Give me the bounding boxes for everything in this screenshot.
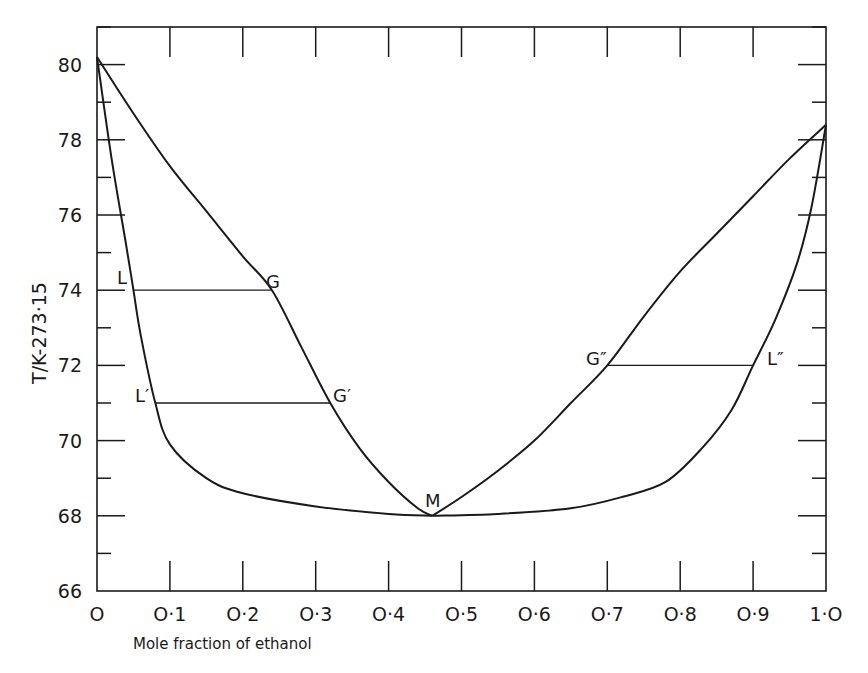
x-tick-label: O·7	[591, 603, 624, 625]
x-tick-label: O	[90, 603, 105, 625]
curve-0	[97, 57, 432, 516]
y-tick-label: 76	[58, 204, 82, 226]
x-tick-label: O·4	[372, 603, 405, 625]
point-label-L-prime: L′	[135, 385, 149, 406]
x-tick-label: O·1	[153, 603, 186, 625]
y-axis-title: T/K-273·15	[28, 282, 50, 385]
phase-curves	[97, 57, 826, 516]
tie-lines	[133, 290, 753, 403]
x-tick-label: O·2	[226, 603, 259, 625]
y-tick-label: 78	[58, 129, 82, 151]
point-label-G-double-prime: G″	[586, 348, 607, 369]
x-tick-labels: OO·1O·2O·3O·4O·5O·6O·7O·8O·91·O	[90, 603, 843, 625]
curve-3	[432, 125, 826, 516]
x-tick-label: O·9	[737, 603, 770, 625]
curve-1	[97, 57, 432, 516]
plot-frame	[97, 27, 826, 591]
x-tick-label: O·5	[445, 603, 478, 625]
x-tick-label: 1·O	[809, 603, 842, 625]
y-tick-label: 70	[58, 430, 82, 452]
point-label-G-prime: G′	[333, 385, 351, 406]
y-tick-label: 66	[58, 580, 82, 602]
y-tick-label: 72	[58, 354, 82, 376]
x-tick-label: O·6	[518, 603, 551, 625]
point-label-M: M	[425, 490, 441, 511]
point-label-L: L	[117, 267, 127, 288]
y-tick-label: 80	[58, 54, 82, 76]
point-label-G: G	[266, 271, 280, 292]
y-tick-labels: 6668707274767880	[58, 54, 82, 602]
y-tick-label: 74	[58, 279, 82, 301]
y-tick-label: 68	[58, 505, 82, 527]
point-label-L-double-prime: L″	[767, 348, 784, 369]
x-axis-title: Mole fraction of ethanol	[133, 635, 312, 653]
x-tick-label: O·8	[664, 603, 697, 625]
axis-ticks	[97, 27, 826, 591]
curve-2	[432, 125, 826, 516]
x-tick-label: O·3	[299, 603, 332, 625]
phase-diagram: OO·1O·2O·3O·4O·5O·6O·7O·8O·91·O 66687072…	[0, 0, 868, 673]
